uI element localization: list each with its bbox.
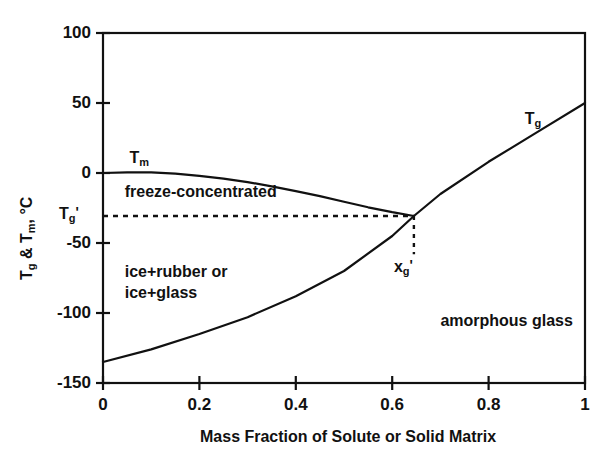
xg-prime-mark: ' xyxy=(410,257,413,273)
y-axis-title-sub-m: m xyxy=(25,223,37,233)
tm-sub: m xyxy=(139,156,149,168)
y-tick-label: -50 xyxy=(66,233,91,253)
tm-base: T xyxy=(130,149,140,166)
tg-prime-base: T xyxy=(59,205,69,222)
y-axis-title-end: , °C xyxy=(18,197,35,224)
tg-base: T xyxy=(525,110,535,127)
freeze-concentrated-label: freeze-concentrated xyxy=(125,183,277,201)
y-axis-title: Tg & Tm, °C xyxy=(18,197,37,280)
tg-prime-sub: g xyxy=(69,212,76,224)
xg-base: x xyxy=(394,258,403,275)
x-tick-label: 1 xyxy=(545,395,614,415)
x-tick-label: 0.4 xyxy=(256,395,336,415)
tg-prime-axis-label: Tg' xyxy=(59,204,79,224)
y-tick-label: -150 xyxy=(57,373,91,393)
state-diagram-figure: Tg & Tm, °C Mass Fraction of Solute or S… xyxy=(0,0,614,462)
reference-lines xyxy=(103,216,414,254)
amorphous-glass-label: amorphous glass xyxy=(440,312,572,330)
tm-curve-label: Tm xyxy=(130,149,150,168)
x-tick-label: 0.6 xyxy=(352,395,432,415)
xg-sub: g xyxy=(403,265,410,277)
x-tick-label: 0.2 xyxy=(159,395,239,415)
y-axis-title-sub-g: g xyxy=(25,263,37,270)
xg-prime-annotation: xg' xyxy=(394,257,413,277)
x-axis-title: Mass Fraction of Solute or Solid Matrix xyxy=(200,428,496,446)
chart-plot-area xyxy=(0,0,614,462)
ice-glass-label: ice+glass xyxy=(125,284,198,302)
x-tick-label: 0 xyxy=(63,395,143,415)
tg-sub: g xyxy=(535,117,542,129)
y-axis-title-mid: & T xyxy=(18,233,35,263)
y-tick-label: -100 xyxy=(57,303,91,323)
y-axis-title-t1: T xyxy=(18,270,35,280)
tg-curve-label: Tg xyxy=(525,110,542,129)
tg-prime-mark: ' xyxy=(76,204,79,220)
ice-rubber-label: ice+rubber or xyxy=(125,263,228,281)
y-tick-label: 0 xyxy=(82,163,91,183)
y-tick-label: 50 xyxy=(72,93,91,113)
x-tick-label: 0.8 xyxy=(449,395,529,415)
axis-frame xyxy=(103,33,585,383)
y-tick-label: 100 xyxy=(63,23,91,43)
